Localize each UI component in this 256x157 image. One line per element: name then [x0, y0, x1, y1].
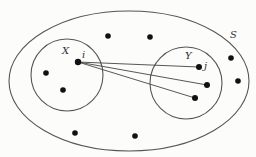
point-in-s	[105, 33, 111, 39]
point-in-s	[72, 130, 78, 136]
edges-from-i	[78, 62, 207, 98]
point-in-s	[235, 78, 241, 84]
node-i-label: i	[82, 49, 85, 60]
point-in-s	[228, 55, 234, 61]
edge-i-0	[78, 62, 199, 67]
point-in-y	[204, 82, 210, 88]
point-in-s	[147, 34, 153, 40]
set-s-ellipse	[9, 11, 249, 151]
node-j	[196, 64, 202, 70]
node-j-label: j	[202, 60, 207, 71]
set-diagram: S X Y i j	[0, 0, 256, 157]
point-in-s	[132, 133, 138, 139]
points	[43, 33, 241, 139]
point-in-x	[43, 70, 49, 76]
point-in-x	[60, 87, 66, 93]
subset-y-label: Y	[185, 50, 193, 61]
subset-x-label: X	[61, 45, 70, 56]
node-i	[75, 59, 81, 65]
set-s-label: S	[230, 29, 237, 40]
point-in-y	[192, 95, 198, 101]
